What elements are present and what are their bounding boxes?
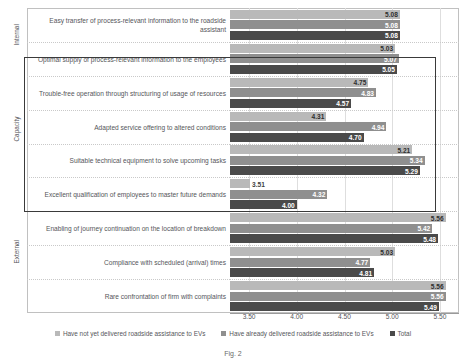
bar-value-label: 5.03 <box>380 45 393 52</box>
bar-value-label: 4.57 <box>336 100 349 107</box>
x-tick-label-4: 5.50 <box>433 313 446 320</box>
bar-value-label: 4.75 <box>354 79 367 86</box>
category-label: Rare confrontation of firm with complain… <box>33 292 226 301</box>
category-label-cell: Optimal supply of process-relevant infor… <box>27 42 230 76</box>
legend-item-0: Have not yet delivered roadside assistan… <box>55 330 205 337</box>
bar-value-label: 5.49 <box>424 303 437 310</box>
category-label: Optimal supply of process-relevant infor… <box>33 54 226 63</box>
bar-group: 4.754.834.57 <box>230 76 459 110</box>
figure-caption: Fig. 2 <box>0 350 466 357</box>
bar-value-label: 4.31 <box>312 113 325 120</box>
category-label: Suitable technical equipment to solve up… <box>33 156 226 165</box>
bar-1: 5.56 <box>230 292 446 301</box>
category-label-cell: Trouble-free operation through structuri… <box>27 76 230 110</box>
bar-value-label: 5.56 <box>431 282 444 289</box>
bar-value-label: 5.29 <box>405 167 418 174</box>
bar-value-label: 5.08 <box>385 21 398 28</box>
bar-0: 5.08 <box>230 10 400 19</box>
bar-1: 4.77 <box>230 258 370 267</box>
bar-2: 5.49 <box>230 302 439 311</box>
bar-0: 5.03 <box>230 44 395 53</box>
bar-0: 5.56 <box>230 213 446 222</box>
bar-0: 4.75 <box>230 78 368 87</box>
bar-value-label: 5.56 <box>431 214 444 221</box>
bar-value-label: 4.32 <box>312 191 325 198</box>
x-tick-label-1: 4.00 <box>290 313 303 320</box>
category-label-cell: Compliance with scheduled (arrival) time… <box>27 245 230 279</box>
bar-value-label: 5.48 <box>423 235 436 242</box>
bar-0: 3.51 <box>230 179 250 188</box>
bar-2: 4.81 <box>230 268 374 277</box>
bar-2: 5.05 <box>230 65 397 74</box>
bar-1: 4.32 <box>230 190 327 199</box>
bar-value-label: 5.05 <box>382 66 395 73</box>
bar-value-label: 5.56 <box>431 293 444 300</box>
legend-label-2: Total <box>398 330 412 337</box>
legend-swatch-1 <box>221 331 226 336</box>
bar-1: 5.08 <box>230 20 400 29</box>
bar-group: 4.314.944.70 <box>230 110 459 144</box>
category-label-cell: Adapted service offering to altered cond… <box>27 110 230 144</box>
bar-group: 5.035.075.05 <box>230 42 459 76</box>
x-tick-label-3: 5.00 <box>386 313 399 320</box>
bar-1: 4.83 <box>230 88 376 97</box>
bar-value-label: 5.08 <box>385 11 398 18</box>
bar-value-label: 4.81 <box>359 269 372 276</box>
category-label: Easy transfer of process-relevant inform… <box>33 16 226 34</box>
category-label-column: Easy transfer of process-relevant inform… <box>27 8 230 313</box>
bar-0: 4.31 <box>230 112 326 121</box>
bar-value-label: 4.94 <box>372 123 385 130</box>
bar-1: 5.34 <box>230 156 425 165</box>
bar-0: 5.21 <box>230 145 412 154</box>
bar-group: 3.514.324.00 <box>230 177 459 211</box>
axis-group-label-capacity: Capacity <box>10 92 23 178</box>
bar-0: 5.56 <box>230 281 446 290</box>
bar-group: 5.085.085.08 <box>230 8 459 42</box>
bar-2: 4.57 <box>230 99 351 108</box>
bar-0: 5.03 <box>230 247 395 256</box>
bar-group: 5.565.565.49 <box>230 279 459 313</box>
bar-1: 4.94 <box>230 122 386 131</box>
axis-group-label-internal: Internal <box>10 14 23 64</box>
bar-value-label: 4.77 <box>355 259 368 266</box>
category-label: Excellent qualification of employees to … <box>33 190 226 199</box>
bar-value-label: 4.83 <box>361 89 374 96</box>
category-label-cell: Easy transfer of process-relevant inform… <box>27 8 230 42</box>
legend-item-2: Total <box>390 330 412 337</box>
bar-value-label: 3.51 <box>252 180 265 187</box>
bar-value-label: 4.70 <box>349 134 362 141</box>
bar-value-label: 5.03 <box>380 248 393 255</box>
bar-2: 4.00 <box>230 200 297 209</box>
x-axis-ticks: 3.504.004.505.005.50 <box>230 313 459 327</box>
bar-group: 5.034.774.81 <box>230 245 459 279</box>
category-label: Compliance with scheduled (arrival) time… <box>33 258 226 267</box>
bar-1: 5.42 <box>230 224 432 233</box>
category-label-cell: Suitable technical equipment to solve up… <box>27 144 230 178</box>
category-label-cell: Enabling of journey continuation on the … <box>27 211 230 245</box>
bar-value-label: 4.00 <box>282 201 295 208</box>
bar-1: 5.07 <box>230 54 399 63</box>
bar-2: 5.48 <box>230 234 438 243</box>
category-label: Trouble-free operation through structuri… <box>33 88 226 97</box>
chart-legend: Have not yet delivered roadside assistan… <box>0 330 466 337</box>
chart-root: Internal Capacity External Easy transfer… <box>0 0 466 363</box>
bars-column: 5.085.085.085.035.075.054.754.834.574.31… <box>230 8 459 313</box>
legend-label-0: Have not yet delivered roadside assistan… <box>63 330 205 337</box>
category-label: Enabling of journey continuation on the … <box>33 224 226 233</box>
legend-label-1: Have already delivered roadside assistan… <box>229 330 373 337</box>
bar-value-label: 5.08 <box>385 32 398 39</box>
bar-value-label: 5.42 <box>417 225 430 232</box>
bar-value-label: 5.34 <box>410 157 423 164</box>
legend-swatch-0 <box>55 331 60 336</box>
x-tick-label-0: 3.50 <box>243 313 256 320</box>
bar-2: 5.08 <box>230 31 400 40</box>
legend-item-1: Have already delivered roadside assistan… <box>221 330 373 337</box>
bar-2: 4.70 <box>230 133 364 142</box>
category-label: Adapted service offering to altered cond… <box>33 122 226 131</box>
bar-group: 5.215.345.29 <box>230 144 459 178</box>
bar-value-label: 5.07 <box>384 55 397 62</box>
x-tick-label-2: 4.50 <box>338 313 351 320</box>
legend-swatch-2 <box>390 331 395 336</box>
bar-group: 5.565.425.48 <box>230 211 459 245</box>
bar-2: 5.29 <box>230 166 420 175</box>
